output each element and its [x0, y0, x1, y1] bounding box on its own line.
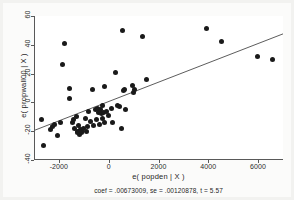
- x-tick-label: 0: [107, 163, 111, 170]
- data-point: [67, 86, 72, 91]
- plot-canvas: [35, 16, 283, 159]
- figure-root: -20000200040006000 -40-200204060 e( popd…: [0, 0, 294, 200]
- y-axis-title: e( propwall00 | X ): [19, 14, 28, 158]
- data-point: [97, 122, 102, 127]
- data-point: [106, 113, 111, 118]
- data-point: [83, 116, 88, 121]
- data-point: [58, 120, 63, 125]
- regression-line: [35, 34, 283, 130]
- data-point: [84, 129, 89, 134]
- data-point: [119, 126, 124, 131]
- data-point: [132, 87, 137, 92]
- data-point: [90, 87, 95, 92]
- plot-area: [34, 16, 283, 160]
- data-point: [140, 34, 145, 39]
- data-point: [109, 106, 114, 111]
- figure-frame: -20000200040006000 -40-200204060 e( popd…: [3, 3, 291, 197]
- data-point: [113, 70, 118, 75]
- data-point: [144, 77, 149, 82]
- x-tick-label: -2000: [50, 163, 68, 170]
- data-point: [52, 122, 57, 127]
- x-tick-label: 6000: [250, 163, 266, 170]
- data-point: [117, 104, 122, 109]
- data-point: [86, 109, 91, 114]
- data-point: [270, 57, 275, 62]
- figure-caption: coef = .00673009, se = .00120878, t = 5.…: [34, 187, 283, 194]
- x-tick-label: 2000: [151, 163, 167, 170]
- data-point: [67, 96, 72, 101]
- x-axis-title: e( popden | X ): [34, 172, 283, 181]
- x-tick-label: 4000: [200, 163, 216, 170]
